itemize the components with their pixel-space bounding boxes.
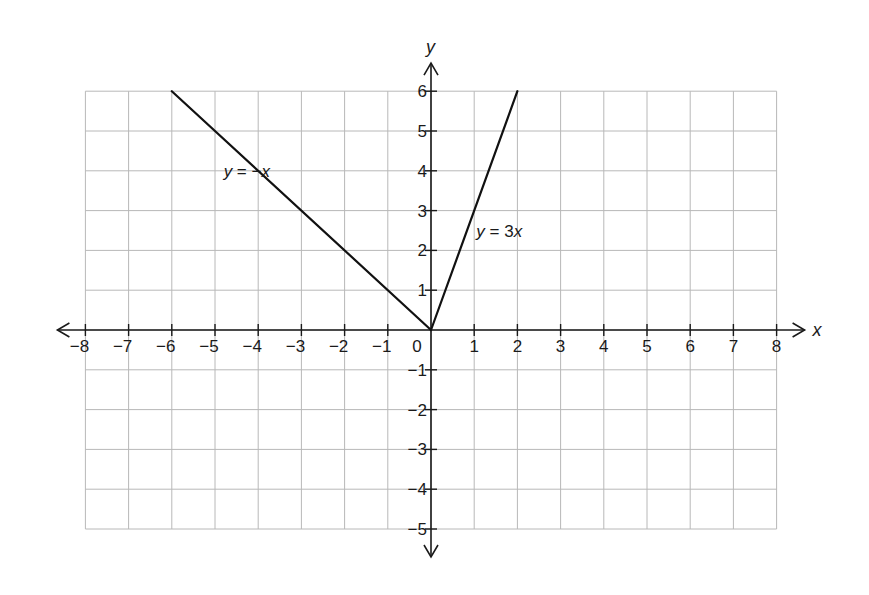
x-tick-label: −2 — [329, 337, 348, 356]
x-tick-label: −8 — [70, 337, 89, 356]
y-tick-label: 5 — [418, 122, 427, 141]
x-tick-label: 2 — [513, 337, 522, 356]
y-tick-label: 6 — [418, 82, 427, 101]
axes — [57, 63, 804, 557]
x-tick-label: 7 — [729, 337, 738, 356]
y-tick-label: 3 — [418, 202, 427, 221]
x-tick-label: −4 — [243, 337, 262, 356]
x-tick-label: 0 — [412, 337, 421, 356]
x-tick-label: 4 — [599, 337, 608, 356]
coordinate-graph: −8−7−6−5−4−3−2−1012345678 654321−1−2−3−4… — [0, 0, 869, 595]
y-tick-label: −2 — [408, 401, 427, 420]
y-tick-label: 2 — [418, 241, 427, 260]
x-axis-title: x — [812, 320, 823, 340]
x-tick-label: −3 — [286, 337, 305, 356]
x-tick-label: −1 — [372, 337, 391, 356]
y-axis-title: y — [424, 37, 436, 57]
x-tick-label: 1 — [469, 337, 478, 356]
x-tick-label: −5 — [199, 337, 218, 356]
y-tick-label: −3 — [408, 440, 427, 459]
x-tick-labels: −8−7−6−5−4−3−2−1012345678 — [70, 337, 782, 356]
y-tick-label: 4 — [418, 162, 427, 181]
x-tick-label: −6 — [156, 337, 175, 356]
y-tick-label: −4 — [408, 480, 427, 499]
x-tick-label: 8 — [772, 337, 781, 356]
x-tick-label: 3 — [556, 337, 565, 356]
x-tick-label: 5 — [642, 337, 651, 356]
x-tick-label: −7 — [113, 337, 132, 356]
x-tick-label: 6 — [685, 337, 694, 356]
label-y-equals-neg-x: y = −x — [223, 162, 271, 181]
y-tick-label: 1 — [418, 281, 427, 300]
y-tick-label: −1 — [408, 361, 427, 380]
y-tick-label: −5 — [408, 520, 427, 539]
label-y-equals-3x: y = 3x — [475, 222, 522, 241]
